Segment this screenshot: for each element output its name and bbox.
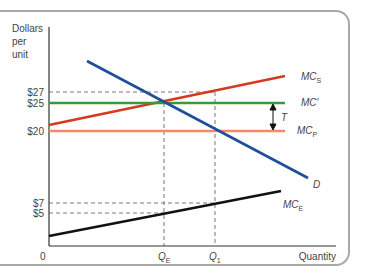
tick-25: $25 bbox=[27, 98, 44, 109]
mc-s-label: MCS bbox=[301, 71, 322, 84]
economics-chart: Dollars per unit $27 $25 $20 $7 $5 T MCS… bbox=[0, 0, 367, 277]
x-axis-label: Quantity bbox=[299, 251, 336, 262]
tick-20: $20 bbox=[27, 126, 44, 137]
mc-prime-label: MC′ bbox=[301, 97, 320, 108]
mc-e-line bbox=[49, 191, 281, 236]
tick-5: $5 bbox=[33, 208, 45, 219]
d-label: D bbox=[313, 179, 320, 190]
tick-27: $27 bbox=[27, 87, 44, 98]
mc-s-line bbox=[49, 76, 285, 125]
q1-label: Q1 bbox=[209, 251, 221, 264]
origin-label: 0 bbox=[40, 251, 46, 262]
mc-e-label: MCE bbox=[283, 199, 304, 212]
t-label: T bbox=[281, 112, 288, 123]
y-axis-label-1: Dollars bbox=[12, 23, 43, 34]
y-axis-label-2: per bbox=[12, 36, 27, 47]
y-axis-label-3: unit bbox=[12, 49, 28, 60]
qe-label: QE bbox=[158, 251, 171, 264]
tax-arrow-icon bbox=[270, 104, 276, 130]
mc-p-label: MCP bbox=[297, 125, 318, 138]
